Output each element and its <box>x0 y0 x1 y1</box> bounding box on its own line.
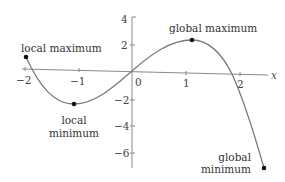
y-tick-neg2: −2 <box>114 94 129 106</box>
global-maximum-point <box>190 38 195 43</box>
x-tick-0: 0 <box>135 76 142 88</box>
y-tick-2: 2 <box>121 39 128 51</box>
local-minimum-point <box>72 102 77 107</box>
y-tick-neg6: −6 <box>114 147 130 159</box>
local-minimum-label-line2: minimum <box>49 127 99 139</box>
global-maximum-label: global maximum <box>169 22 257 34</box>
global-minimum-label-line1: global <box>218 151 251 163</box>
function-graph: 4 2 −2 −4 −6 −2 −1 0 1 2 x local maximum… <box>0 0 285 182</box>
y-tick-neg4: −4 <box>114 120 130 132</box>
function-curve <box>26 40 264 168</box>
local-minimum-label-line1: local <box>61 114 87 126</box>
x-axis-label: x <box>271 69 277 81</box>
global-minimum-label-line2: minimum <box>201 163 251 175</box>
global-minimum-point <box>262 166 267 171</box>
local-maximum-label: local maximum <box>21 42 102 54</box>
local-maximum-point <box>24 55 29 60</box>
y-tick-4: 4 <box>121 13 128 25</box>
x-tick-neg1: −1 <box>70 75 85 87</box>
x-tick-1: 1 <box>183 77 190 89</box>
x-tick-neg2: −2 <box>16 74 31 86</box>
